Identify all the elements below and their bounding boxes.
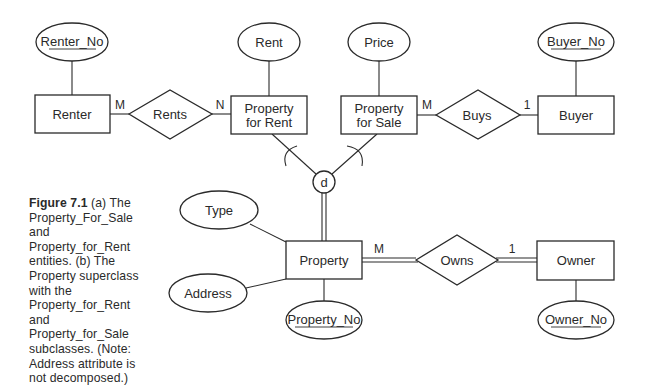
entity-label: Property <box>299 253 349 268</box>
type-connector <box>250 224 286 242</box>
attribute-label: Owner_No <box>545 312 607 327</box>
attribute-renter-no: Renter_No <box>36 23 108 61</box>
entity-property: Property <box>286 241 362 279</box>
attribute-type: Type <box>180 191 258 229</box>
entity-property-for-rent: Property for Rent <box>231 96 307 134</box>
attribute-label: Address <box>184 286 232 301</box>
entity-label-line2: for Rent <box>246 115 293 130</box>
relationship-buys: Buys <box>436 90 520 139</box>
specialization-disjoint: d <box>313 171 335 193</box>
figure-label: Figure 7.1 <box>29 196 88 210</box>
relationship-label: Owns <box>440 253 474 268</box>
figure-caption: Figure 7.1 (a) The Property_For_Sale and… <box>29 196 149 386</box>
attribute-label: Renter_No <box>41 34 104 49</box>
entity-label-line1: Property <box>244 101 294 116</box>
attribute-label: Price <box>364 35 394 50</box>
attribute-owner-no: Owner_No <box>538 301 614 339</box>
attribute-price: Price <box>348 23 410 61</box>
entity-label: Buyer <box>559 108 594 123</box>
entity-buyer: Buyer <box>538 96 614 134</box>
cardinality-buys-left: M <box>422 98 432 112</box>
attribute-label: Buyer_No <box>547 34 605 49</box>
entity-renter: Renter <box>35 95 110 133</box>
pfr-specialization-line <box>272 134 316 174</box>
attribute-address: Address <box>169 274 247 312</box>
entity-owner: Owner <box>537 241 614 280</box>
attribute-buyer-no: Buyer_No <box>538 23 614 61</box>
cardinality-owns-left: M <box>374 242 384 256</box>
attribute-label: Property_No <box>288 312 361 327</box>
attribute-label: Rent <box>255 35 283 50</box>
attribute-rent: Rent <box>238 23 300 61</box>
entity-label: Renter <box>52 107 92 122</box>
pfr-subset-arc-icon <box>285 146 297 166</box>
cardinality-rents-left: M <box>115 98 125 112</box>
attribute-property-no: Property_No <box>286 301 362 339</box>
entity-label-line2: for Sale <box>357 115 402 130</box>
disjoint-symbol: d <box>320 175 327 190</box>
cardinality-owns-right: 1 <box>509 242 516 256</box>
relationship-label: Buys <box>463 108 492 123</box>
entity-label: Owner <box>557 253 596 268</box>
relationship-rents: Rents <box>129 90 212 139</box>
attribute-label: Type <box>205 203 233 218</box>
relationship-label: Rents <box>153 107 187 122</box>
entity-property-for-sale: Property for Sale <box>341 96 417 134</box>
entity-label-line1: Property <box>354 101 404 116</box>
caption-text: (a) The Property_For_Sale and Property_f… <box>29 196 139 385</box>
cardinality-buys-right: 1 <box>524 98 531 112</box>
address-connector <box>246 279 286 288</box>
relationship-owns: Owns <box>416 235 498 285</box>
cardinality-rents-right: N <box>216 98 225 112</box>
pfs-specialization-line <box>332 134 377 174</box>
